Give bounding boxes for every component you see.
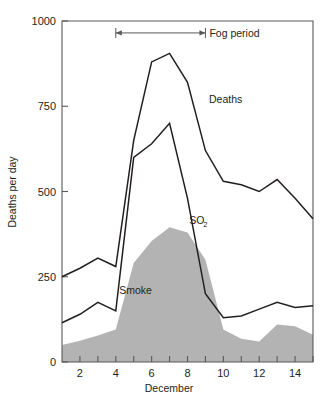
x-tick-label-8: 8 [184, 367, 190, 379]
fog-period-annotation: Fog period [116, 27, 260, 39]
air-pollution-deaths-chart: 02505007501000 2468101214 Fog period Dea… [0, 0, 332, 410]
fog-period-left-arrowhead [116, 30, 122, 35]
x-tick-label-4: 4 [113, 367, 119, 379]
series-label-deaths: Deaths [209, 93, 242, 105]
x-tick-label-2: 2 [77, 367, 83, 379]
x-axis-tick-labels: 2468101214 [77, 367, 301, 379]
series-label-smoke: Smoke [119, 284, 152, 296]
y-axis-tick-labels: 02505007501000 [32, 15, 56, 368]
y-tick-label-250: 250 [38, 271, 56, 283]
x-tick-label-6: 6 [149, 367, 155, 379]
y-tick-label-750: 750 [38, 100, 56, 112]
y-axis-ticks [62, 21, 68, 362]
x-tick-label-10: 10 [217, 367, 229, 379]
series-area-smoke [62, 227, 313, 362]
x-tick-label-14: 14 [289, 367, 301, 379]
series-label-so2-group: SO 2 [189, 214, 207, 229]
chart-figure: 02505007501000 2468101214 Fog period Dea… [0, 0, 332, 410]
x-tick-label-12: 12 [253, 367, 265, 379]
fog-period-right-arrowhead [199, 30, 205, 35]
fog-period-label: Fog period [209, 27, 259, 39]
series-label-so2: SO [189, 214, 204, 226]
x-axis-title: December [145, 382, 194, 394]
y-axis-title: Deaths per day [6, 156, 18, 228]
y-tick-label-500: 500 [38, 186, 56, 198]
series-label-so2-subscript: 2 [203, 220, 207, 229]
y-tick-label-0: 0 [50, 356, 56, 368]
y-tick-label-1000: 1000 [32, 15, 56, 27]
